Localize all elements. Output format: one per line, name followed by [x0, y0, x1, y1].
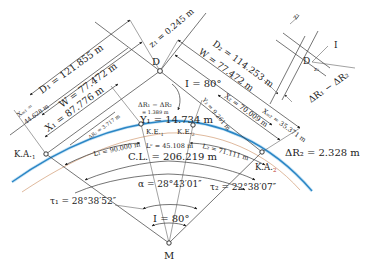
inset-d: D [303, 56, 310, 66]
diagram-canvas: D M K.A.1 K.A.2 K.E.1 K.E.2 D₁ = 121.855… [0, 0, 365, 271]
label-i-bottom: I = 80° [153, 213, 189, 224]
label-dr-diff: ΔR₁ − ΔR₂ [138, 101, 172, 109]
angle-i-top-arc [172, 84, 180, 110]
label-d: D [152, 56, 160, 67]
dim-cl-arc [85, 161, 255, 180]
clothoid-diagram: D M K.A.1 K.A.2 K.E.1 K.E.2 D₁ = 121.855… [0, 0, 365, 271]
label-tau1: τ₁ = 28°38′52″ [50, 196, 117, 206]
label-y1: Y₁ = 14.734 m [139, 114, 214, 125]
label-tau2: τ₂ = 22°38′07″ [210, 182, 277, 192]
label-xm2: Xₘ₂ = 35.371 m [261, 107, 308, 144]
inset-dr-diff: ΔR₁ − ΔR₂ [306, 69, 351, 104]
inset-z2: z₂ [314, 66, 319, 72]
label-lc: Lᶜ = 45.108 m [146, 142, 193, 150]
inset-z1: z₁ [291, 11, 301, 21]
label-cl: C.L. = 206.219 m [128, 151, 218, 162]
angle-alpha-arc [143, 205, 197, 210]
point-ka2 [260, 150, 264, 154]
inset-i: I [334, 40, 338, 50]
label-i-top: I = 80° [185, 78, 221, 89]
radius-ka2 [169, 152, 262, 243]
label-ke1: K.E.1 [146, 128, 164, 137]
label-m: M [164, 250, 174, 261]
point-m [167, 241, 171, 245]
label-z1: z₁ = 0.245 m [147, 6, 196, 49]
label-alpha: α = 28°43′01″ [138, 179, 202, 189]
label-ka1: K.A.1 [14, 149, 35, 160]
point-d [158, 69, 163, 74]
label-ka2: K.A.2 [255, 162, 276, 173]
label-dr2: ΔR₂ = 2.328 m [285, 147, 360, 158]
label-dr1: ΔR₁ = 3.717 m [87, 113, 121, 140]
point-ka1 [44, 152, 48, 156]
dim-dr1 [70, 112, 115, 145]
